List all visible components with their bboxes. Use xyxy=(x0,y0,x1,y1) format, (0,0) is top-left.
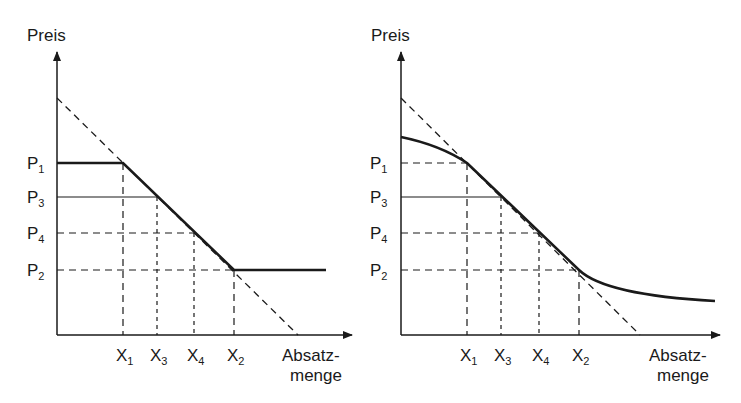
left-x-axis-label-line1: Absatz- xyxy=(282,346,340,365)
left-kinked-demand-curve xyxy=(57,163,326,270)
left-quantity-label-x1: X1 xyxy=(116,346,133,367)
right-x-axis-label-line1: Absatz- xyxy=(649,346,707,365)
left-quantity-label-x2: X2 xyxy=(227,346,244,367)
right-quantity-label-x3: X3 xyxy=(494,346,511,367)
right-quantity-label-x4: X4 xyxy=(532,346,549,367)
left-quantity-label-x3: X3 xyxy=(150,346,167,367)
left-x-axis-label-line2: menge xyxy=(290,366,342,385)
left-y-axis-label: Preis xyxy=(27,26,66,45)
left-price-label-p2: P2 xyxy=(27,261,44,282)
right-smooth-demand-curve xyxy=(401,137,715,301)
right-linear-demand-dashed xyxy=(401,98,640,335)
diagram-canvas: Preis P1 P3 P4 P2 X1 X3 X4 X2 Absatz- me… xyxy=(0,0,741,403)
left-price-label-p1: P1 xyxy=(27,154,44,175)
left-quantity-label-x4: X4 xyxy=(187,346,204,367)
left-diagram: Preis P1 P3 P4 P2 X1 X3 X4 X2 Absatz- me… xyxy=(27,26,352,385)
right-diagram: Preis P1 P3 P4 P2 X1 X3 X4 X2 Absatz- me… xyxy=(370,26,720,385)
right-price-label-p1: P1 xyxy=(370,154,387,175)
right-price-label-p4: P4 xyxy=(370,224,387,245)
right-quantity-label-x2: X2 xyxy=(572,346,589,367)
right-x-axis-label-line2: menge xyxy=(657,366,709,385)
right-y-axis-label: Preis xyxy=(371,26,410,45)
left-price-label-p4: P4 xyxy=(27,224,44,245)
right-price-label-p3: P3 xyxy=(370,188,387,209)
right-quantity-label-x1: X1 xyxy=(460,346,477,367)
right-price-label-p2: P2 xyxy=(370,261,387,282)
left-price-label-p3: P3 xyxy=(27,188,44,209)
